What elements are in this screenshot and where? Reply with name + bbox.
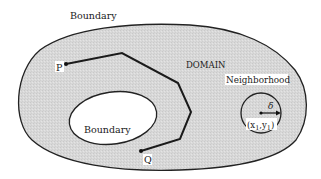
outer-boundary-label: Boundary xyxy=(70,10,117,21)
inner-boundary-label: Boundary xyxy=(84,124,131,135)
domain-label: DOMAIN xyxy=(186,60,226,70)
point-p-dot xyxy=(64,62,68,66)
point-q-label: Q xyxy=(144,154,152,165)
center-label-close: ) xyxy=(271,120,274,130)
neighborhood-label: Neighborhood xyxy=(226,75,290,85)
point-q-dot xyxy=(139,149,143,153)
domain-diagram: Boundary DOMAIN Neighborhood Boundary P … xyxy=(0,0,321,179)
point-p-label: P xyxy=(56,62,63,73)
radius-delta-label: δ xyxy=(268,101,273,111)
center-label-x: (x xyxy=(247,120,255,130)
